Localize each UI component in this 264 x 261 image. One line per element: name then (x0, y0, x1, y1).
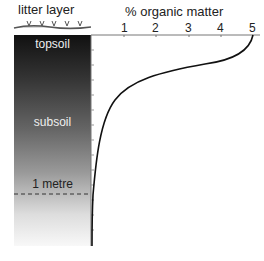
chart-svg (0, 0, 264, 261)
litter-ground (14, 26, 91, 29)
organic-matter-curve (92, 35, 253, 246)
